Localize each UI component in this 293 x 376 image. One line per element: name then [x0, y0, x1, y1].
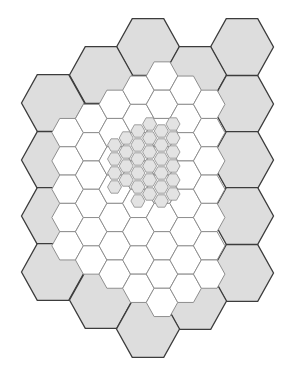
small-hex-cell [143, 188, 157, 200]
hex-grid-diagram [0, 0, 293, 376]
small-hex-cell [154, 139, 168, 151]
small-hex-cell [119, 160, 133, 172]
small-hex-cell [166, 118, 180, 130]
small-hex-cell [166, 174, 180, 186]
small-hex-cell [108, 167, 122, 179]
small-hex-cell [154, 181, 168, 193]
small-hex-cell [119, 132, 133, 144]
small-hex-cell [143, 160, 157, 172]
small-hex-cell [131, 125, 145, 137]
small-hex-cell [143, 118, 157, 130]
small-hex-cell [131, 195, 145, 207]
small-hex-cell [131, 181, 145, 193]
small-hex-cell [119, 174, 133, 186]
small-hex-cell [119, 146, 133, 158]
small-hex-cell [143, 174, 157, 186]
small-hex-cell [166, 188, 180, 200]
small-hex-cell [131, 167, 145, 179]
small-hex-cell [131, 139, 145, 151]
small-hex-cell [143, 146, 157, 158]
small-hex-cell [108, 181, 122, 193]
small-hex-cell [131, 153, 145, 165]
small-hex-cell [143, 132, 157, 144]
small-hex-cell [166, 132, 180, 144]
small-hex-cell [108, 139, 122, 151]
small-hex-cell [166, 160, 180, 172]
small-hex-cell [154, 195, 168, 207]
small-hex-cell [108, 153, 122, 165]
small-hex-cell [154, 125, 168, 137]
small-hex-cell [166, 146, 180, 158]
small-hex-cell [154, 153, 168, 165]
small-hex-cell [154, 167, 168, 179]
